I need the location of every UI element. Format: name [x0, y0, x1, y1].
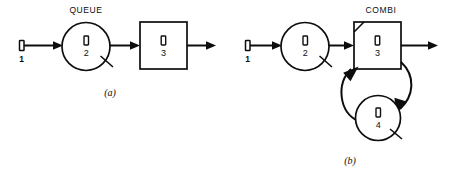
arrow-head-icon: [343, 67, 358, 82]
source-node-1b: 1: [245, 41, 250, 65]
queue-header-label: QUEUE: [69, 5, 102, 15]
circle-outline: [356, 96, 401, 141]
arrow-3a-output: [187, 41, 216, 49]
diagram-svg: QUEUE 1 2: [0, 0, 455, 174]
source-number-1a: 1: [19, 54, 24, 64]
circle-outline: [281, 23, 329, 71]
arrow-head-icon: [428, 41, 438, 49]
subfigure-b-caption: (b): [344, 155, 356, 167]
circle-outline: [62, 23, 110, 71]
circle-node-4b: 4: [356, 96, 403, 141]
activity-box-glyph-icon: [375, 36, 380, 45]
arrow-1a-to-2a: [24, 41, 63, 49]
source-number-1b: 1: [245, 54, 250, 64]
activity-box-glyph-icon: [161, 36, 166, 45]
source-node-1a: 1: [19, 41, 24, 65]
combi-header-label: COMBI: [366, 5, 397, 15]
arrow-3b-output: [401, 41, 438, 49]
node-number-3b: 3: [375, 48, 380, 58]
arrow-head-icon: [344, 41, 354, 49]
node-number-3a: 3: [161, 48, 166, 58]
square-node-3a: 3: [140, 22, 187, 69]
arrow-head-icon: [130, 41, 140, 49]
node-number-4b: 4: [376, 120, 381, 130]
arrow-head-icon: [206, 41, 216, 49]
figure-canvas: QUEUE 1 2: [0, 0, 455, 174]
arrow-1b-to-2b: [250, 41, 282, 49]
subfigure-a-caption: (a): [104, 87, 116, 99]
source-bar-icon: [20, 41, 25, 51]
activity-box-glyph-icon: [376, 108, 381, 117]
square-node-3b: 3: [354, 22, 401, 69]
circle-node-2b: 2: [281, 23, 332, 71]
source-bar-icon: [246, 41, 251, 51]
activity-box-glyph-icon: [303, 36, 308, 45]
arrow-2b-to-3b: [329, 41, 354, 49]
subfigure-b: COMBI 1 2: [245, 5, 438, 167]
subfigure-a: QUEUE 1 2: [19, 5, 216, 99]
node-number-2b: 2: [303, 48, 308, 58]
arrow-2a-to-3a: [110, 41, 140, 49]
activity-box-glyph-icon: [84, 36, 89, 45]
node-number-2a: 2: [84, 48, 89, 58]
circle-node-2a: 2: [62, 23, 113, 71]
